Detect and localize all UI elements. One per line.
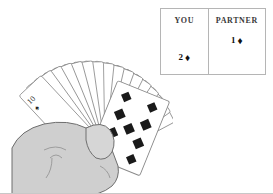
score-panel: YOU 2♦ PARTNER 1♦ xyxy=(160,8,266,75)
diamond-icon-you: ♦ xyxy=(185,53,190,63)
cards-and-hand-drawing: 7 ♦ Q ♦ D ♦ Q ♣ xyxy=(0,0,173,194)
score-column-you: YOU 2♦ xyxy=(161,9,209,74)
score-count-you: 2 xyxy=(178,52,183,62)
score-header-partner: PARTNER xyxy=(209,16,265,25)
score-column-partner: PARTNER 1♦ xyxy=(209,9,265,74)
card-game-screenshot: 7 ♦ Q ♦ D ♦ Q ♣ xyxy=(0,0,273,194)
diamond-icon-partner: ♦ xyxy=(237,36,242,46)
score-value-partner: 1♦ xyxy=(209,35,265,46)
hand-of-cards-illustration: 7 ♦ Q ♦ D ♦ Q ♣ xyxy=(0,0,173,194)
score-header-you: YOU xyxy=(161,16,208,25)
score-value-you: 2♦ xyxy=(161,52,208,63)
hand-graphic xyxy=(12,122,118,194)
score-count-partner: 1 xyxy=(231,35,236,45)
